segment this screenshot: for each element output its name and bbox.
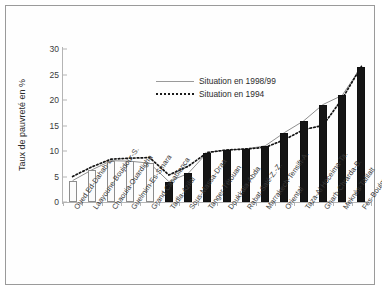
- x-tick-label: Sous-Massa-Draa: [187, 206, 194, 211]
- x-tick-label: Fès-Boulmane: [360, 206, 367, 211]
- y-axis-title: Taux de pauvreté en %: [14, 66, 30, 184]
- y-tick-label: 15: [50, 121, 59, 131]
- y-tick-label: 25: [50, 70, 59, 80]
- x-tick-label: Laayoune-Boujdour-S.: [91, 206, 98, 211]
- x-tick-label: Chaouia-Ouardigha: [110, 206, 117, 211]
- x-tick-mark: [63, 202, 64, 206]
- legend-swatch-icon: [156, 90, 194, 98]
- x-tick-label: Marrakech-Tensift-A.: [264, 206, 271, 211]
- legend-label: Situation en 1998/99: [199, 76, 276, 86]
- x-tick-label: Oued Ed-Dahab-L.: [72, 206, 79, 211]
- x-tick-label: Doukkala-Abda: [226, 206, 233, 211]
- x-tick-label: Grand Casablanca: [149, 206, 156, 211]
- legend-item-1: Situation en 1994: [156, 87, 276, 100]
- legend-swatch-icon: [156, 77, 194, 85]
- chart-frame: Taux de pauvreté en % 051015202530 Oued …: [5, 5, 375, 285]
- x-tick-label: Gharb-Chrarda-B.: [322, 206, 329, 211]
- x-tick-label: Tanger-Tétouan: [206, 206, 213, 211]
- x-tick-label: Meknès-Tafilalt: [341, 206, 348, 211]
- x-tick-label: Oriental: [283, 206, 290, 211]
- x-tick-label: Tadla-Azilal: [168, 206, 175, 211]
- y-tick-label: 0: [54, 197, 59, 207]
- y-tick-label: 30: [50, 44, 59, 54]
- x-tick-label: Rabat-Salé-Z.-Z.: [245, 206, 252, 211]
- x-tick-label: Taza-Al Hoceima-Ta.: [303, 206, 310, 211]
- y-tick-label: 5: [54, 172, 59, 182]
- chart-legend: Situation en 1998/99Situation en 1994: [156, 74, 276, 100]
- y-tick-label: 10: [50, 146, 59, 156]
- y-tick-label: 20: [50, 95, 59, 105]
- legend-item-0: Situation en 1998/99: [156, 74, 276, 87]
- legend-label: Situation en 1994: [199, 89, 264, 99]
- x-tick-label: Guelmim-Es-Smara: [129, 206, 136, 211]
